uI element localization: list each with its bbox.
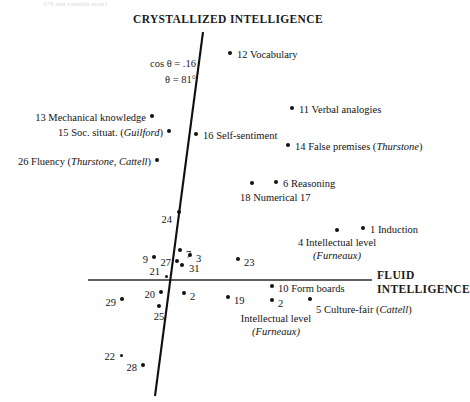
point-label: 4 Intellectual level(Furneaux): [298, 236, 376, 262]
point-label: 20: [145, 288, 156, 301]
fluid-title-line1: FLUID: [377, 269, 415, 281]
data-point: [152, 255, 156, 259]
point-label: 25: [154, 310, 165, 323]
data-point: [308, 297, 312, 301]
point-label: 13 Mechanical knowledge: [35, 111, 146, 124]
point-label: 19: [234, 294, 245, 307]
data-point: [178, 248, 182, 252]
theta-value: θ = 81°: [78, 72, 196, 88]
point-label: 15 Soc. situat. (Guilford): [58, 126, 163, 139]
data-point: [274, 180, 278, 184]
data-point: [361, 226, 365, 230]
point-label: 18 Numerical 17: [240, 191, 311, 204]
data-point: [159, 290, 163, 294]
point-label: 2: [190, 290, 195, 303]
data-point: [290, 106, 294, 110]
point-label: 27: [161, 256, 172, 269]
point-label: 12 Vocabulary: [237, 48, 298, 61]
point-label: 21: [150, 265, 161, 278]
point-label: 5 Culture-fair (Cattell): [316, 303, 412, 316]
point-label: 10 Form boards: [278, 282, 345, 295]
data-point: [228, 51, 232, 55]
point-label: 11 Verbal analogies: [299, 103, 381, 116]
data-point: [182, 291, 186, 295]
data-point: [194, 132, 198, 136]
angle-annotation: cos θ = .16 θ = 81°: [78, 56, 196, 88]
point-label: 29: [106, 296, 117, 309]
data-point: [150, 114, 154, 118]
data-point: [155, 158, 159, 162]
fluid-intelligence-title: FLUID INTELLIGENCE: [377, 269, 470, 296]
cropped-header-fragment: (79 and variable error): [44, 0, 204, 6]
data-point: [270, 284, 274, 288]
point-label: 28: [127, 361, 138, 374]
data-point: [236, 257, 240, 261]
crystallized-intelligence-title: CRYSTALLIZED INTELLIGENCE: [133, 13, 323, 27]
data-point: [250, 181, 254, 185]
data-point: [335, 228, 339, 232]
point-label: 1 Induction: [370, 223, 418, 236]
point-label: 9: [143, 253, 148, 266]
data-point: [165, 275, 168, 278]
free-label: Intellectual level(Furneaux): [241, 312, 311, 338]
data-point: [175, 259, 179, 263]
data-point: [157, 304, 161, 308]
data-point: [270, 298, 274, 302]
data-point: [177, 210, 181, 214]
point-label: 2: [278, 297, 283, 310]
data-point: [180, 263, 184, 267]
point-label: 23: [244, 256, 255, 269]
data-point: [167, 129, 171, 133]
point-label: 22: [105, 350, 116, 363]
data-point: [286, 143, 290, 147]
data-point: [120, 297, 124, 301]
point-label: 31: [189, 262, 200, 275]
fluid-title-line2: INTELLIGENCE: [377, 283, 470, 295]
cosine-value: cos θ = .16: [78, 56, 196, 72]
point-label: 26 Fluency (Thurstone, Cattell): [18, 155, 151, 168]
point-label: 16 Self-sentiment: [203, 129, 277, 142]
data-point: [226, 295, 230, 299]
point-label: 24: [162, 213, 173, 226]
data-point: [120, 354, 123, 357]
point-label: 6 Reasoning: [283, 177, 335, 190]
point-label: 7: [186, 248, 191, 261]
point-label: 14 False premises (Thurstone): [295, 140, 422, 153]
data-point: [141, 363, 145, 367]
